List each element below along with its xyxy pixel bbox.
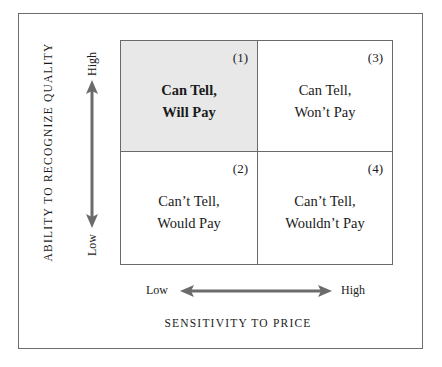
quadrant-label-line1: Can Tell,: [121, 79, 257, 101]
quadrant-label-line2: Wouldn’t Pay: [258, 212, 392, 234]
quadrant-1: (1) Can Tell, Will Pay: [121, 41, 258, 152]
quadrant-number: (3): [368, 50, 383, 66]
quadrant-grid: (1) Can Tell, Will Pay (3) Can Tell, Won…: [120, 40, 393, 265]
quadrant-4: (4) Can’t Tell, Wouldn’t Pay: [258, 152, 392, 264]
quadrant-number: (4): [368, 161, 383, 177]
quadrant-label-line1: Can’t Tell,: [258, 190, 392, 212]
quadrant-label-line2: Won’t Pay: [258, 101, 392, 123]
vertical-double-arrow-icon: [84, 80, 100, 228]
quadrant-number: (2): [233, 161, 248, 177]
y-axis-low-label: Low: [85, 234, 100, 256]
y-axis-title: ABILITY TO RECOGNIZE QUALITY: [42, 43, 54, 262]
x-axis-high-label: High: [341, 283, 365, 298]
quadrant-label: Can’t Tell, Would Pay: [121, 190, 257, 234]
y-axis-high-label: High: [85, 52, 100, 76]
quadrant-label-line1: Can Tell,: [258, 79, 392, 101]
quadrant-label: Can’t Tell, Wouldn’t Pay: [258, 190, 392, 234]
quadrant-label: Can Tell, Will Pay: [121, 79, 257, 123]
quadrant-label-line1: Can’t Tell,: [121, 190, 257, 212]
quadrant-2: (2) Can’t Tell, Would Pay: [121, 152, 258, 264]
quadrant-label-line2: Will Pay: [121, 101, 257, 123]
quadrant-label: Can Tell, Won’t Pay: [258, 79, 392, 123]
quadrant-label-line2: Would Pay: [121, 212, 257, 234]
x-axis-low-label: Low: [146, 283, 168, 298]
x-axis-title: SENSITIVITY TO PRICE: [0, 317, 442, 329]
horizontal-double-arrow-icon: [180, 284, 332, 298]
quadrant-3: (3) Can Tell, Won’t Pay: [258, 41, 392, 152]
quadrant-number: (1): [233, 50, 248, 66]
